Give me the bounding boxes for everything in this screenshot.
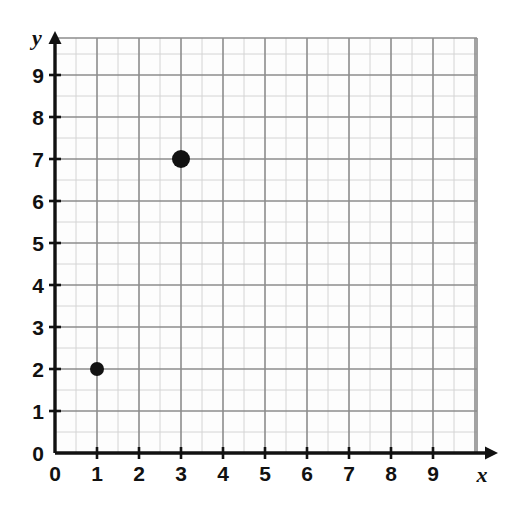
x-tick-label: 4 (217, 462, 229, 485)
y-tick-label: 5 (32, 232, 44, 255)
y-tick-label: 0 (32, 442, 44, 465)
y-tick-label: 9 (32, 64, 44, 87)
x-tick-label: 0 (49, 462, 61, 485)
x-axis-label: x (476, 462, 488, 487)
y-tick-label: 4 (32, 274, 44, 297)
y-tick-label: 3 (32, 316, 44, 339)
x-tick-label: 9 (427, 462, 439, 485)
y-tick-label: 1 (32, 400, 44, 423)
x-tick-label: 5 (259, 462, 271, 485)
x-tick-label: 7 (343, 462, 355, 485)
data-point: (1, 2) (90, 362, 104, 376)
y-tick-label: 8 (32, 106, 44, 129)
x-tick-label: 2 (133, 462, 145, 485)
coordinate-plane-svg: 0123456789 0123456789 x y (1, 2)(3, 7) (0, 0, 507, 506)
x-tick-label: 3 (175, 462, 187, 485)
data-point: (3, 7) (172, 150, 190, 168)
coordinate-grid-figure: 0123456789 0123456789 x y (1, 2)(3, 7) (0, 0, 507, 506)
x-tick-label: 1 (91, 462, 103, 485)
x-tick-label: 8 (385, 462, 397, 485)
y-tick-label: 2 (32, 358, 44, 381)
x-tick-label: 6 (301, 462, 313, 485)
y-tick-label: 7 (32, 148, 44, 171)
y-tick-label: 6 (32, 190, 44, 213)
